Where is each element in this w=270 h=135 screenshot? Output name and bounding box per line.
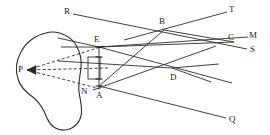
- point-label-c: C: [228, 33, 234, 42]
- arrowhead-group: [27, 66, 36, 75]
- point-label-n: N: [81, 87, 88, 96]
- ray-segments-group: [58, 12, 248, 118]
- ray-upper-left-to-T: [124, 12, 227, 40]
- point-label-t: T: [229, 5, 235, 14]
- ray-A-to-Q: [99, 86, 226, 118]
- virtual-ray-dashed-group: [27, 46, 108, 89]
- point-label-m: M: [249, 31, 257, 40]
- point-label-r: R: [64, 7, 70, 16]
- point-label-q: Q: [229, 115, 236, 124]
- dashed-ray-P-upper: [27, 46, 104, 70]
- point-label-b: B: [159, 17, 165, 26]
- ray-D-to-right-horizontal: [172, 64, 219, 68]
- ray-E-edge-left: [58, 38, 99, 47]
- ray-A-to-D-to-upper-right: [93, 46, 216, 90]
- ray-diagram-figure: RTBECMSPDNAQ: [0, 0, 270, 135]
- arrowhead-at-P: [27, 66, 36, 75]
- ray-D-to-lower-right: [172, 68, 211, 82]
- dashed-ray-P-lower: [27, 70, 101, 89]
- point-label-d: D: [170, 73, 177, 82]
- point-label-e: E: [94, 35, 100, 44]
- dashed-ray-P-middle: [27, 68, 108, 70]
- point-label-a: A: [96, 91, 103, 100]
- point-label-p: P: [18, 65, 23, 74]
- point-label-s: S: [250, 45, 255, 54]
